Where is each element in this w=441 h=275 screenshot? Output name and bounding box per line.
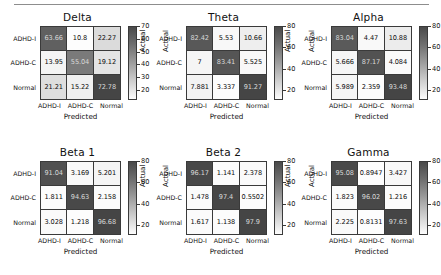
- x-tick-label: ADHD-I: [34, 237, 65, 244]
- matrix-cell-value: 0.8131: [360, 219, 382, 226]
- colorbar-ticks: 80604020: [428, 21, 441, 105]
- matrix-cell: 21.21: [41, 75, 67, 99]
- y-tick-label: ADHD-I: [3, 35, 36, 42]
- heatmap-grid: 95.080.89473.4271.82396.021.2162.2250.81…: [331, 161, 412, 235]
- matrix-cell: 55.04: [67, 51, 93, 75]
- matrix-cell-value: 55.04: [71, 59, 89, 66]
- matrix-cell-value: 96.17: [190, 170, 208, 177]
- x-tick-label: ADHD-C: [356, 237, 387, 244]
- colorbar: [419, 26, 428, 100]
- matrix-cell-value: 91.27: [244, 84, 262, 91]
- matrix-cell: 22.27: [94, 27, 120, 51]
- x-tick-labels: ADHD-IADHD-CNormal: [325, 237, 418, 247]
- matrix-cell-value: 4.084: [389, 59, 407, 66]
- colorbar-tick-label: 80: [432, 157, 440, 165]
- matrix-cell-value: 7.881: [190, 84, 208, 91]
- x-tick-label: ADHD-I: [180, 102, 211, 109]
- matrix-cell-value: 5.666: [335, 59, 353, 66]
- plot-area: ActualADHD-IADHD-CNormal96.171.1412.3781…: [186, 161, 267, 235]
- colorbar-tickmark: [283, 204, 286, 205]
- confusion-matrix-panel: ThetaActualADHD-IADHD-CNormal82.425.5310…: [150, 4, 297, 141]
- matrix-cell: 1.141: [213, 162, 239, 186]
- matrix-cell: 87.17: [358, 51, 384, 75]
- panel-title: Theta: [150, 11, 297, 23]
- colorbar-tickmark: [283, 225, 286, 226]
- colorbar-tickmark: [428, 161, 431, 162]
- x-tick-label: ADHD-C: [65, 237, 96, 244]
- x-tick-label: Normal: [96, 102, 127, 109]
- matrix-cell-value: 5.989: [335, 84, 353, 91]
- colorbar: [274, 26, 283, 100]
- x-tick-label: Normal: [96, 237, 127, 244]
- matrix-cell: 91.27: [240, 75, 266, 99]
- y-tick-label: Normal: [149, 84, 182, 91]
- y-tick-labels: ADHD-IADHD-CNormal: [151, 161, 184, 235]
- plot-area: ActualADHD-IADHD-CNormal91.043.1695.2011…: [40, 161, 121, 235]
- x-tick-label: ADHD-I: [325, 237, 356, 244]
- x-tick-label: ADHD-C: [211, 237, 242, 244]
- colorbar-tick-label: 40: [432, 200, 440, 208]
- matrix-cell-value: 93.48: [389, 84, 407, 91]
- matrix-cell: 1.138: [213, 210, 239, 234]
- y-axis-label: Actual: [0, 29, 1, 52]
- matrix-cell-value: 97.9: [246, 219, 260, 226]
- matrix-cell: 15.22: [67, 75, 93, 99]
- y-tick-label: Normal: [3, 84, 36, 91]
- matrix-cell: 96.17: [187, 162, 213, 186]
- matrix-cell-value: 7: [198, 59, 202, 66]
- matrix-cell-value: 91.04: [44, 170, 62, 177]
- matrix-cell: 5.666: [332, 51, 358, 75]
- x-tick-label: ADHD-C: [356, 102, 387, 109]
- matrix-cell-value: 2.225: [335, 219, 353, 226]
- matrix-cell-value: 5.201: [98, 170, 116, 177]
- matrix-cell: 5.989: [332, 75, 358, 99]
- matrix-cell: 4.47: [358, 27, 384, 51]
- matrix-cell: 97.63: [385, 210, 411, 234]
- panel-title: Beta 2: [150, 146, 297, 158]
- y-tick-label: ADHD-C: [294, 59, 327, 66]
- matrix-cell-value: 96.68: [98, 219, 116, 226]
- matrix-cell: 97.9: [240, 210, 266, 234]
- colorbar-tick-label: 30: [141, 73, 149, 81]
- x-tick-label: Normal: [387, 237, 418, 244]
- x-tick-labels: ADHD-IADHD-CNormal: [34, 237, 127, 247]
- colorbar-tickmark: [283, 161, 286, 162]
- colorbar-tickmark: [428, 26, 431, 27]
- colorbar-tick-label: 60: [432, 43, 440, 51]
- matrix-cell-value: 15.22: [71, 84, 89, 91]
- matrix-cell: 3.169: [67, 162, 93, 186]
- y-tick-label: Normal: [3, 219, 36, 226]
- x-tick-label: ADHD-I: [34, 102, 65, 109]
- colorbar-tickmark: [283, 26, 286, 27]
- matrix-cell-value: 63.66: [44, 35, 62, 42]
- matrix-cell-value: 82.42: [190, 35, 208, 42]
- colorbar-tick-label: 20: [432, 86, 440, 94]
- matrix-cell-value: 1.141: [217, 170, 235, 177]
- colorbar-tickmark: [137, 225, 140, 226]
- matrix-cell: 91.04: [41, 162, 67, 186]
- colorbar-ticks: 80604020: [428, 156, 441, 240]
- y-tick-label: ADHD-C: [294, 194, 327, 201]
- matrix-cell-value: 1.823: [335, 194, 353, 201]
- matrix-cell-value: 2.359: [362, 84, 380, 91]
- colorbar-tick-label: 20: [432, 221, 440, 229]
- matrix-cell: 0.8947: [358, 162, 384, 186]
- y-tick-label: Normal: [149, 219, 182, 226]
- confusion-matrix-panel: DeltaActualADHD-IADHD-CNormal63.6610.822…: [4, 4, 151, 141]
- matrix-cell-value: 96.02: [362, 194, 380, 201]
- y-axis-label: Actual: [283, 164, 292, 187]
- x-tick-label: ADHD-I: [180, 237, 211, 244]
- colorbar-tickmark: [283, 90, 286, 91]
- x-axis-label: Predicted: [180, 247, 273, 256]
- y-tick-label: ADHD-C: [149, 194, 182, 201]
- colorbar: [128, 161, 137, 235]
- matrix-cell-value: 4.47: [364, 35, 378, 42]
- matrix-cell-value: 10.66: [244, 35, 262, 42]
- matrix-cell: 63.66: [41, 27, 67, 51]
- matrix-cell: 93.48: [385, 75, 411, 99]
- matrix-cell-value: 3.169: [71, 170, 89, 177]
- y-tick-label: ADHD-I: [149, 35, 182, 42]
- matrix-cell-value: 3.028: [44, 219, 62, 226]
- heatmap-grid: 63.6610.822.2713.9555.0419.1221.2115.227…: [40, 26, 121, 100]
- y-tick-label: ADHD-I: [294, 170, 327, 177]
